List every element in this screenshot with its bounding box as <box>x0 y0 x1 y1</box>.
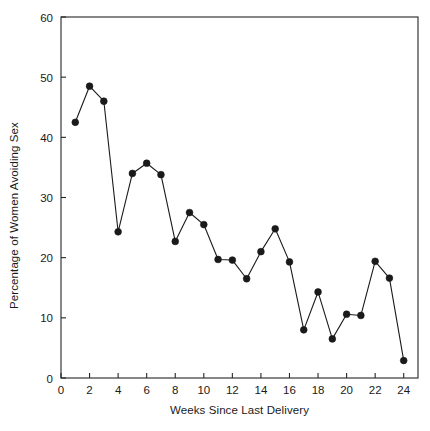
x-tick-label: 10 <box>197 384 210 396</box>
x-tick-label: 4 <box>115 384 122 396</box>
data-point <box>400 357 407 364</box>
x-tick-label: 2 <box>86 384 92 396</box>
x-axis-ticks: 024681012141618202224 <box>58 373 411 396</box>
x-axis-label: Weeks Since Last Delivery <box>61 404 418 416</box>
y-tick-label: 60 <box>40 12 53 24</box>
data-series-markers <box>72 83 407 364</box>
x-tick-label: 6 <box>143 384 149 396</box>
x-tick-label: 0 <box>58 384 64 396</box>
data-point <box>100 98 107 105</box>
data-point <box>72 119 79 126</box>
data-point <box>343 311 350 318</box>
data-point <box>215 256 222 263</box>
y-tick-label: 10 <box>40 312 53 324</box>
data-point <box>315 289 322 296</box>
data-point <box>286 258 293 265</box>
data-point <box>300 326 307 333</box>
data-point <box>186 209 193 216</box>
data-point <box>243 275 250 282</box>
x-tick-label: 20 <box>340 384 353 396</box>
data-point <box>272 225 279 232</box>
data-point <box>258 248 265 255</box>
y-tick-label: 0 <box>47 373 53 385</box>
data-point <box>129 170 136 177</box>
data-point <box>386 275 393 282</box>
data-series-line <box>75 86 403 360</box>
data-point <box>372 258 379 265</box>
data-point <box>329 335 336 342</box>
line-chart-plot: 0102030405060 024681012141618202224 <box>0 0 430 431</box>
data-point <box>143 160 150 167</box>
x-tick-label: 24 <box>397 384 410 396</box>
data-point <box>172 238 179 245</box>
data-point <box>86 83 93 90</box>
y-axis-ticks: 0102030405060 <box>40 12 66 385</box>
x-tick-label: 16 <box>283 384 296 396</box>
x-tick-label: 14 <box>255 384 268 396</box>
x-tick-label: 12 <box>226 384 239 396</box>
y-tick-label: 20 <box>40 252 53 264</box>
y-tick-label: 30 <box>40 192 53 204</box>
x-tick-label: 18 <box>312 384 325 396</box>
y-axis-label-container: Percentage of Women Avoiding Sex <box>2 0 26 431</box>
data-point <box>200 221 207 228</box>
data-point <box>115 228 122 235</box>
chart-figure: Percentage of Women Avoiding Sex 0102030… <box>0 0 430 431</box>
y-axis-label: Percentage of Women Avoiding Sex <box>2 0 26 431</box>
y-tick-label: 40 <box>40 132 53 144</box>
x-tick-label: 22 <box>369 384 382 396</box>
y-tick-label: 50 <box>40 72 53 84</box>
data-point <box>158 171 165 178</box>
x-tick-label: 8 <box>172 384 178 396</box>
data-point <box>229 257 236 264</box>
data-point <box>357 312 364 319</box>
